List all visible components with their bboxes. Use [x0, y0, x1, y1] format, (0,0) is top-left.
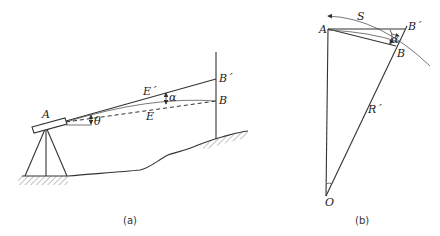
label-O: O: [325, 196, 334, 209]
label-A-a: A: [41, 108, 50, 121]
label-R-prime: R´: [367, 103, 382, 116]
label-B-a: B: [218, 94, 227, 107]
diagram-canvas: A θ E´ α E B´ B (a) S A B´ α B R´ O (: [0, 0, 440, 236]
label-alpha-a: α: [169, 91, 177, 104]
angle-O-arc: [326, 183, 332, 184]
label-E: E: [145, 110, 154, 123]
line-AB: [328, 29, 396, 46]
label-S: S: [357, 10, 365, 23]
ground-hatch-right: [200, 131, 248, 150]
caption-a: (a): [123, 215, 137, 226]
label-alpha-b: α: [391, 33, 399, 46]
ground-profile: [22, 131, 248, 176]
ground-hatch-left: [18, 176, 68, 185]
label-B-prime-b: B´: [407, 20, 422, 33]
tripod: [25, 124, 67, 176]
line-OB-prime: [326, 26, 407, 196]
caption-b: (b): [355, 215, 369, 226]
label-B-b: B: [396, 47, 405, 60]
label-theta: θ: [94, 115, 101, 128]
figure-a: A θ E´ α E B´ B (a): [18, 52, 248, 226]
label-B-prime-a: B´: [218, 72, 233, 85]
label-A-b: A: [318, 23, 327, 36]
figure-b: S A B´ α B R´ O (b): [318, 10, 430, 226]
line-AO: [326, 29, 328, 196]
label-E-prime: E´: [142, 85, 157, 98]
